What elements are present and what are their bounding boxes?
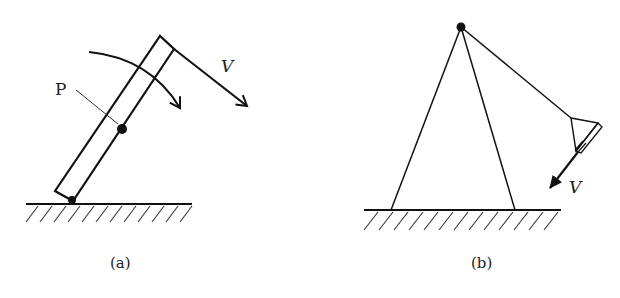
figure-b: V (b) xyxy=(364,23,602,273)
velocity-arrow-a xyxy=(174,49,247,106)
caption-a: (a) xyxy=(110,254,131,272)
velocity-label-a: V xyxy=(221,56,235,76)
point-p-label: P xyxy=(55,79,66,99)
lamp-head xyxy=(571,118,602,153)
ground-b xyxy=(364,210,561,230)
rigid-bar xyxy=(55,36,174,201)
right-leg xyxy=(461,27,515,210)
ground-hatching-a xyxy=(26,206,192,222)
ground-hatching-b xyxy=(364,212,558,230)
diagram-canvas: P V (a) xyxy=(0,0,620,298)
point-p-dot xyxy=(117,124,127,134)
left-leg xyxy=(391,27,461,210)
velocity-label-b: V xyxy=(569,177,583,197)
caption-b: (b) xyxy=(471,254,492,272)
pivot-dot-a xyxy=(68,196,76,204)
figure-a: P V (a) xyxy=(26,36,247,272)
apex-pivot-dot xyxy=(457,23,466,32)
ground-a xyxy=(26,204,192,222)
lamp-arm xyxy=(461,27,571,118)
